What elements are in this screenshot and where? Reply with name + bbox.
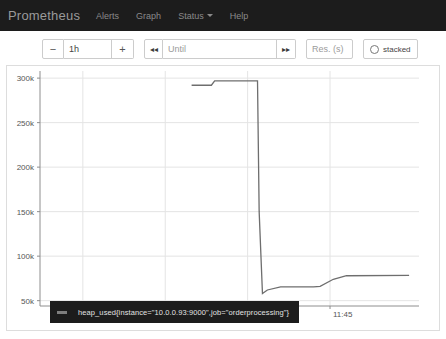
end-time-input[interactable]: Until bbox=[163, 39, 277, 59]
radio-icon bbox=[370, 45, 379, 54]
end-time-input-group: ◂◂ Until ▸▸ bbox=[144, 39, 296, 59]
increase-range-button[interactable]: + bbox=[112, 39, 134, 59]
nav-item-alerts-label: Alerts bbox=[96, 11, 119, 21]
nav-links: Alerts Graph Status Help bbox=[96, 11, 248, 21]
y-axis-tick-label: 250k bbox=[17, 119, 35, 128]
nav-item-alerts[interactable]: Alerts bbox=[96, 11, 119, 21]
graph-page: − 1h + ◂◂ Until ▸▸ Res. (s) stacked 50k1… bbox=[0, 31, 446, 339]
graph-controls-toolbar: − 1h + ◂◂ Until ▸▸ Res. (s) stacked bbox=[42, 39, 418, 59]
graph-panel: 50k100k150k200k250k300k11:0011:1511:3011… bbox=[6, 65, 440, 331]
stacked-toggle[interactable]: stacked bbox=[363, 39, 418, 59]
y-axis-tick-label: 50k bbox=[21, 297, 35, 306]
step-forward-icon[interactable]: ▸▸ bbox=[277, 39, 296, 59]
y-axis-tick-label: 100k bbox=[17, 252, 35, 261]
nav-item-graph-label: Graph bbox=[136, 11, 161, 21]
time-series-chart[interactable]: 50k100k150k200k250k300k11:0011:1511:3011… bbox=[7, 66, 441, 332]
navbar: Prometheus Alerts Graph Status Help bbox=[0, 0, 446, 31]
chevron-down-icon bbox=[207, 14, 213, 17]
y-axis-tick-label: 150k bbox=[17, 208, 35, 217]
range-input[interactable]: 1h bbox=[64, 39, 112, 59]
y-axis-tick-label: 300k bbox=[17, 74, 35, 83]
decrease-range-button[interactable]: − bbox=[42, 39, 64, 59]
stacked-toggle-label: stacked bbox=[383, 45, 411, 54]
chart-legend[interactable]: heap_used{instance="10.0.0.93:9000",job=… bbox=[50, 301, 299, 323]
nav-item-help[interactable]: Help bbox=[230, 11, 249, 21]
nav-item-status[interactable]: Status bbox=[178, 11, 213, 21]
nav-item-status-label: Status bbox=[178, 11, 204, 21]
legend-series-label: heap_used{instance="10.0.0.93:9000",job=… bbox=[78, 308, 289, 317]
series-line bbox=[192, 81, 410, 294]
nav-item-help-label: Help bbox=[230, 11, 249, 21]
range-input-group: − 1h + bbox=[42, 39, 134, 59]
nav-item-graph[interactable]: Graph bbox=[136, 11, 161, 21]
step-backward-icon[interactable]: ◂◂ bbox=[144, 39, 163, 59]
brand-logo[interactable]: Prometheus bbox=[8, 8, 80, 23]
plot-area[interactable]: 50k100k150k200k250k300k11:0011:1511:3011… bbox=[7, 66, 441, 332]
resolution-input[interactable]: Res. (s) bbox=[306, 39, 353, 59]
legend-color-swatch bbox=[57, 311, 67, 314]
y-axis-tick-label: 200k bbox=[17, 163, 35, 172]
x-axis-tick-label: 11:45 bbox=[333, 310, 353, 319]
